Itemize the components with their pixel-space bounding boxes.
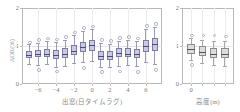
boxplot [107,8,114,84]
panel-right: 0120 高度(m) [168,0,240,112]
x-tick-label: 4 [121,87,135,93]
x-tick-label: −6 [31,87,45,93]
x-tick-label: 6 [139,87,153,93]
y-tick-mark [20,84,22,85]
boxplot [152,8,159,84]
boxplot [125,8,132,84]
x-tick-mark [202,84,203,86]
x-tick-label: 0 [184,87,198,93]
boxplot [35,8,42,84]
boxplot [134,8,141,84]
boxplot [89,8,96,84]
x-tick-mark [225,84,226,86]
boxplot [187,8,195,84]
boxplot [199,8,207,84]
boxplot [26,8,33,84]
y-axis-title-left: ΔOR(%) [8,39,15,62]
y-tick-label: 1 [169,43,179,49]
x-axis-title-right: 高度(m) [182,96,234,106]
y-tick-label: 0 [169,81,179,87]
boxplot [221,8,229,84]
boxplot [143,8,150,84]
boxplot [44,8,51,84]
x-tick-label: −2 [67,87,81,93]
x-tick-label: 0 [85,87,99,93]
x-tick-label: 2 [103,87,117,93]
y-tick-mark [180,8,182,9]
boxplot [116,8,123,84]
y-tick-label: 0 [9,81,19,87]
y-tick-label: 2 [9,5,19,11]
y-tick-label: 2 [169,5,179,11]
boxplot [80,8,87,84]
x-tick-label: −4 [49,87,63,93]
y-tick-mark [20,8,22,9]
boxplot [98,8,105,84]
y-tick-mark [180,46,182,47]
x-axis-title-left: 出窓(日タイムラグ) [22,96,162,106]
boxplot [62,8,69,84]
x-tick-mark [214,84,215,86]
y-tick-mark [180,84,182,85]
boxplot [71,8,78,84]
panel-left: 012−6−4−20246 ΔOR(%) 出窓(日タイムラグ) [0,0,168,112]
figure-canvas: 012−6−4−20246 ΔOR(%) 出窓(日タイムラグ) 0120 高度(… [0,0,240,112]
y-tick-mark [20,46,22,47]
boxplot [210,8,218,84]
boxplot [53,8,60,84]
